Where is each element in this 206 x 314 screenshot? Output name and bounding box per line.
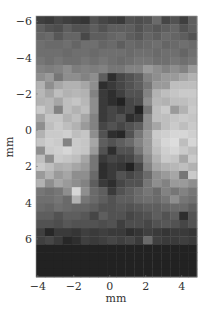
heatmap-cell — [36, 163, 45, 172]
heatmap-cell — [99, 49, 108, 58]
heatmap-cell — [152, 49, 161, 58]
heatmap-cell — [54, 81, 63, 90]
heatmap-cell — [188, 32, 197, 41]
heatmap-cell — [45, 130, 54, 139]
heatmap-cell — [90, 73, 99, 82]
heatmap-cell — [161, 57, 170, 66]
heatmap-cell — [170, 147, 179, 156]
heatmap-cell — [72, 212, 81, 221]
heatmap-cell — [108, 57, 117, 66]
heatmap-cell — [45, 65, 54, 74]
heatmap-cell — [117, 122, 126, 131]
heatmap-cell — [170, 122, 179, 131]
heatmap-cell — [143, 89, 152, 98]
heatmap-cell — [125, 236, 134, 245]
heatmap-cell — [188, 40, 197, 49]
heatmap-cell — [152, 179, 161, 188]
heatmap-cell — [117, 236, 126, 245]
heatmap-cell — [81, 16, 90, 25]
heatmap-cell — [134, 122, 143, 131]
heatmap-cell — [45, 212, 54, 221]
heatmap-cell — [72, 65, 81, 74]
heatmap-cell — [134, 236, 143, 245]
heatmap-cell — [54, 147, 63, 156]
heatmap-cell — [161, 89, 170, 98]
heatmap-cell — [188, 195, 197, 204]
heatmap-cell — [90, 155, 99, 164]
heatmap-cell — [143, 73, 152, 82]
heatmap-cell — [81, 138, 90, 147]
heatmap-cell — [108, 16, 117, 25]
heatmap-cell — [99, 155, 108, 164]
heatmap-cell — [63, 98, 72, 107]
heatmap-cell — [152, 40, 161, 49]
heatmap-cell — [117, 57, 126, 66]
heatmap-cells — [36, 16, 197, 277]
heatmap-cell — [99, 40, 108, 49]
y-tick-label: −2 — [16, 88, 32, 101]
heatmap-cell — [134, 40, 143, 49]
heatmap-cell — [143, 24, 152, 33]
heatmap-cell — [188, 261, 197, 270]
heatmap-cell — [161, 261, 170, 270]
heatmap-cell — [152, 106, 161, 115]
heatmap-cell — [170, 98, 179, 107]
heatmap-cell — [108, 179, 117, 188]
heatmap-cell — [179, 89, 188, 98]
heatmap-cell — [161, 195, 170, 204]
heatmap-cell — [161, 179, 170, 188]
heatmap-cell — [117, 130, 126, 139]
heatmap-cell — [170, 24, 179, 33]
heatmap-cell — [170, 187, 179, 196]
heatmap-cell — [143, 106, 152, 115]
heatmap-cell — [90, 212, 99, 221]
heatmap-cell — [143, 269, 152, 278]
heatmap-cell — [188, 24, 197, 33]
heatmap-cell — [81, 179, 90, 188]
heatmap-cell — [143, 171, 152, 180]
heatmap-cell — [125, 24, 134, 33]
heatmap-cell — [72, 244, 81, 253]
heatmap-cell — [108, 65, 117, 74]
heatmap-cell — [179, 244, 188, 253]
x-tick-label: −2 — [66, 280, 82, 293]
heatmap-chart: −4−2024 −6−4−20246 mm mm — [0, 0, 206, 314]
heatmap-cell — [152, 24, 161, 33]
heatmap-cell — [152, 122, 161, 131]
heatmap-cell — [143, 49, 152, 58]
heatmap-cell — [81, 155, 90, 164]
heatmap-cell — [81, 187, 90, 196]
heatmap-cell — [36, 269, 45, 278]
heatmap-cell — [179, 220, 188, 229]
heatmap-cell — [81, 81, 90, 90]
heatmap-cell — [72, 269, 81, 278]
heatmap-cell — [45, 261, 54, 270]
heatmap-cell — [108, 155, 117, 164]
heatmap-cell — [143, 40, 152, 49]
heatmap-cell — [179, 236, 188, 245]
heatmap-cell — [125, 16, 134, 25]
heatmap-cell — [81, 212, 90, 221]
heatmap-cell — [72, 220, 81, 229]
heatmap-cell — [117, 179, 126, 188]
heatmap-cell — [36, 49, 45, 58]
heatmap-cell — [188, 130, 197, 139]
heatmap-cell — [54, 106, 63, 115]
heatmap-cell — [134, 98, 143, 107]
heatmap-cell — [117, 228, 126, 237]
heatmap-cell — [125, 89, 134, 98]
heatmap-cell — [54, 130, 63, 139]
heatmap-cell — [170, 269, 179, 278]
heatmap-cell — [63, 138, 72, 147]
heatmap-cell — [36, 138, 45, 147]
heatmap-cell — [81, 220, 90, 229]
heatmap-cell — [108, 147, 117, 156]
heatmap-cell — [134, 24, 143, 33]
heatmap-cell — [125, 269, 134, 278]
heatmap-cell — [36, 40, 45, 49]
heatmap-cell — [108, 32, 117, 41]
heatmap-cell — [152, 65, 161, 74]
heatmap-cell — [170, 73, 179, 82]
heatmap-cell — [108, 130, 117, 139]
heatmap-cell — [170, 130, 179, 139]
